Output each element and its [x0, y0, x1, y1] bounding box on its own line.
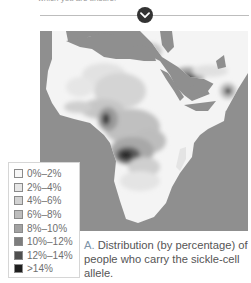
legend-item: 12%–14%: [14, 249, 79, 263]
legend-label: 10%–12%: [27, 236, 73, 247]
legend-swatch: [14, 264, 23, 273]
legend-label: >14%: [27, 263, 53, 274]
partial-header-text: which you are unsure.: [38, 0, 116, 3]
legend-swatch: [14, 224, 23, 233]
caption-label: A.: [84, 239, 95, 251]
legend-item: 4%–6%: [14, 194, 79, 208]
legend-item: 8%–10%: [14, 221, 79, 235]
legend-swatch: [14, 237, 23, 246]
map-legend: 0%–2% 2%–4% 4%–6% 6%–8% 8%–10% 10%–12% 1…: [8, 162, 80, 278]
legend-item: 2%–4%: [14, 181, 79, 195]
legend-label: 2%–4%: [27, 182, 61, 193]
legend-label: 4%–6%: [27, 195, 61, 206]
legend-swatch: [14, 183, 23, 192]
legend-swatch: [14, 169, 23, 178]
expand-button[interactable]: [137, 7, 153, 23]
chevron-down-icon: [140, 12, 150, 19]
legend-item: 0%–2%: [14, 167, 79, 181]
legend-item: 10%–12%: [14, 235, 79, 249]
legend-label: 12%–14%: [27, 250, 73, 261]
legend-swatch: [14, 251, 23, 260]
legend-item: >14%: [14, 262, 79, 276]
legend-label: 0%–2%: [27, 168, 61, 179]
legend-swatch: [14, 210, 23, 219]
legend-item: 6%–8%: [14, 208, 79, 222]
legend-swatch: [14, 196, 23, 205]
figure-caption: A. Distribution (by percentage) of peopl…: [84, 238, 249, 280]
legend-label: 6%–8%: [27, 209, 61, 220]
caption-text: Distribution (by percentage) of people w…: [84, 239, 248, 279]
legend-label: 8%–10%: [27, 223, 67, 234]
